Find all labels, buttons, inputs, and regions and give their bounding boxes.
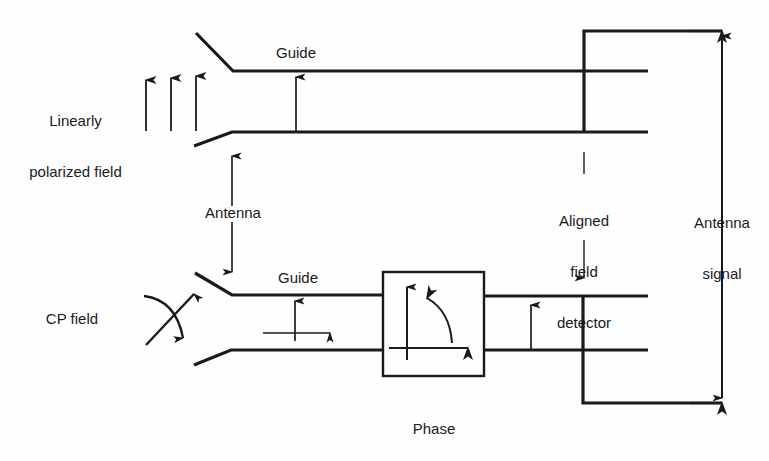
label-linearly-polarized-field-line2: polarized field [8,163,143,180]
cp-field-rotation-symbol [144,294,194,345]
upper-guide-lines [584,71,648,132]
label-antenna-signal: Antenna signal [674,180,769,316]
linear-field-arrows [146,76,196,131]
upper-aligned-field-detector [584,31,722,132]
label-linearly-polarized-field-line1: Linearly [8,112,143,129]
phase-shifter-box [383,272,484,376]
label-antenna-signal-line1: Antenna [674,214,769,231]
label-aligned-detector-line3: detector [534,314,634,331]
label-aligned-field-detector: Aligned field detector [534,178,634,365]
label-antenna-signal-line2: signal [674,265,769,282]
label-antenna: Antenna [188,204,278,221]
lower-antenna-horn [194,273,383,365]
upper-antenna-horn [194,33,584,146]
label-phase-shifter-in-guide: Phase shifter in guide [381,386,487,461]
diagram-canvas: Linearly polarized field Guide Antenna C… [0,0,769,461]
lower-guide-field-arrows [263,301,330,341]
label-aligned-detector-line2: field [534,263,634,280]
label-cp-field: CP field [22,310,122,327]
label-guide-bottom: Guide [258,269,338,286]
label-linearly-polarized-field: Linearly polarized field [8,78,143,214]
label-guide-top: Guide [256,44,336,61]
label-aligned-detector-line1: Aligned [534,212,634,229]
label-phase-shifter-line1: Phase [381,420,487,437]
phase-shifter-vectors [389,287,468,360]
